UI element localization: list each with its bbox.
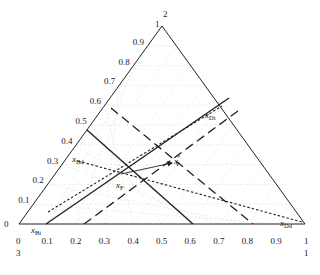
label-xBi: xBi [30, 225, 41, 236]
triangle-outline [19, 26, 305, 224]
vertex-bottom-right-index: 1 [304, 248, 309, 258]
label-xF: xF [115, 180, 124, 191]
label-xDd: xDd [279, 218, 293, 229]
left-tick-label: 0.4 [61, 136, 73, 146]
bottom-tick-label: 0.3 [99, 236, 111, 246]
bottom-tick-label: 0.5 [156, 236, 168, 246]
grid-line [105, 85, 205, 224]
left-tick-label: 0.2 [33, 175, 44, 185]
left-tick-label: 0.1 [18, 195, 29, 205]
grid-line [219, 165, 262, 224]
bottom-tick-label: 0.7 [213, 236, 225, 246]
left-tick-label: 0.9 [133, 37, 145, 47]
vertex-top-index: 2 [163, 9, 168, 19]
left-tick-label: 0.7 [104, 76, 116, 86]
grid-line [62, 165, 219, 224]
dotted-line-xBd-xDd [78, 161, 302, 222]
left-axis-ticks: 00.10.20.30.40.50.60.70.80.9 [4, 37, 144, 229]
left-tick-label: 0 [4, 219, 9, 229]
label-xF-star: x*F [173, 153, 180, 167]
vertex-bottom-right-value: 1 [304, 236, 309, 246]
bottom-tick-label: 0.1 [42, 236, 53, 246]
bottom-tick-label: 0.8 [242, 236, 254, 246]
dashed-line-left-to-bottom [111, 108, 253, 224]
left-tick-label: 0.8 [118, 57, 130, 67]
vertex-bottom-left-index: 3 [16, 248, 21, 258]
vertex-bottom-left-value: 0 [16, 236, 21, 246]
ternary-diagram: 1 2 0 3 1 1 00.10.20.30.40.50.60.70.80.9… [0, 0, 320, 275]
bottom-axis-ticks: 0.10.20.30.40.50.60.70.80.9 [42, 236, 283, 246]
solid-line-left-to-bottom [87, 130, 193, 224]
bottom-tick-label: 0.4 [127, 236, 139, 246]
grid-line [191, 145, 248, 224]
grid-line [248, 184, 277, 224]
bottom-tick-label: 0.2 [70, 236, 81, 246]
bottom-tick-label: 0.9 [270, 236, 282, 246]
label-xBd: xBd [71, 154, 84, 165]
vertex-top-value: 1 [155, 19, 160, 29]
bottom-tick-label: 0.6 [185, 236, 197, 246]
left-tick-label: 0.3 [47, 156, 59, 166]
left-tick-label: 0.6 [90, 96, 102, 106]
left-tick-label: 0.5 [76, 116, 88, 126]
